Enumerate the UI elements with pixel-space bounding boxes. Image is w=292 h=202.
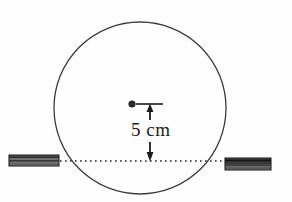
- left-support-block: [9, 155, 59, 166]
- dimension-lower-arrowhead: [147, 152, 154, 162]
- center-point-marker: [128, 100, 135, 107]
- diagram-canvas: [0, 0, 292, 202]
- dimension-label: 5 cm: [131, 119, 170, 140]
- hoop-circle: [54, 22, 226, 194]
- right-support-block: [225, 158, 271, 170]
- physics-diagram-figure: 5 cm: [0, 0, 292, 202]
